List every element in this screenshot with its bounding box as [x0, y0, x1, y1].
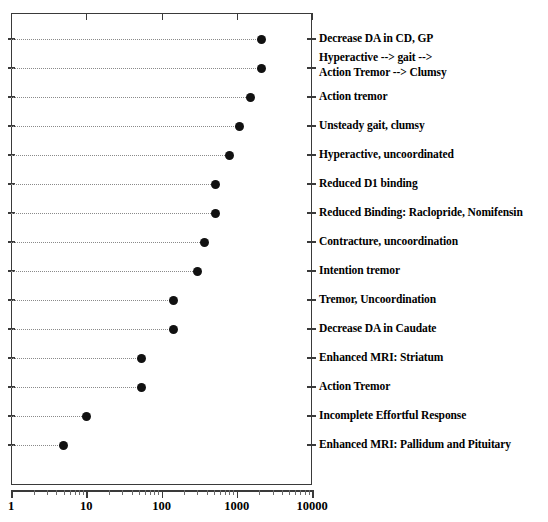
- category-label: Reduced D1 binding: [319, 177, 418, 191]
- x-minor-tick: [197, 490, 198, 495]
- x-minor-tick: [282, 490, 283, 495]
- leader-line: [11, 126, 240, 127]
- x-minor-tick: [273, 490, 274, 495]
- category-label: Enhanced MRI: Pallidum and Pituitary: [319, 438, 511, 452]
- leader-line: [11, 184, 215, 185]
- label-tick: [307, 241, 316, 243]
- x-minor-tick: [75, 490, 76, 495]
- label-tick: [307, 357, 316, 359]
- label-tick: [307, 67, 316, 69]
- leader-line: [11, 242, 204, 243]
- leader-line: [11, 358, 142, 359]
- leader-line: [11, 213, 215, 214]
- leader-line: [11, 445, 64, 446]
- data-point-marker[interactable]: [246, 93, 255, 102]
- label-tick: [307, 299, 316, 301]
- leader-line: [11, 329, 174, 330]
- data-point-marker[interactable]: [211, 180, 220, 189]
- x-tick-label: 1: [8, 499, 14, 514]
- x-minor-tick: [220, 490, 221, 495]
- plot-area: [11, 13, 312, 485]
- x-minor-tick: [158, 490, 159, 495]
- x-tick-label: 1000: [224, 499, 249, 514]
- leader-line: [11, 68, 262, 69]
- x-minor-tick: [56, 490, 57, 495]
- category-label: Action Tremor: [319, 380, 390, 394]
- x-minor-tick: [64, 490, 65, 495]
- label-tick: [307, 125, 316, 127]
- x-tick-1000: [237, 490, 239, 498]
- data-point-marker[interactable]: [82, 412, 91, 421]
- x-tick-1: [11, 490, 13, 498]
- data-point-marker[interactable]: [169, 325, 178, 334]
- data-point-marker[interactable]: [211, 209, 220, 218]
- category-label: Incomplete Effortful Response: [319, 409, 466, 423]
- x-minor-tick: [225, 490, 226, 495]
- x-minor-tick: [207, 490, 208, 495]
- category-label: Reduced Binding: Raclopride, Nomifensin: [319, 206, 523, 220]
- label-tick: [307, 270, 316, 272]
- x-minor-tick: [300, 490, 301, 495]
- x-minor-tick: [79, 490, 80, 495]
- data-point-marker[interactable]: [235, 122, 244, 131]
- x-minor-tick: [139, 490, 140, 495]
- data-point-marker[interactable]: [257, 64, 266, 73]
- x-tick-10000: [312, 490, 314, 498]
- data-point-marker[interactable]: [257, 35, 266, 44]
- leader-line: [11, 387, 142, 388]
- x-minor-tick: [229, 490, 230, 495]
- data-point-marker[interactable]: [59, 441, 68, 450]
- x-minor-tick: [259, 490, 260, 495]
- label-tick: [307, 96, 316, 98]
- x-minor-tick: [150, 490, 151, 495]
- leader-line: [11, 155, 229, 156]
- top-tick-100: [162, 13, 163, 20]
- x-tick-100: [162, 490, 164, 498]
- x-minor-tick: [184, 490, 185, 495]
- x-minor-tick: [109, 490, 110, 495]
- category-label: Contracture, uncoordination: [319, 235, 458, 249]
- category-label: Tremor, Uncoordination: [319, 293, 436, 307]
- label-tick: [307, 444, 316, 446]
- category-label: Hyperactive, uncoordinated: [319, 148, 454, 162]
- leader-line: [11, 271, 197, 272]
- top-tick-10000: [312, 13, 313, 20]
- label-tick: [307, 386, 316, 388]
- label-tick: [307, 183, 316, 185]
- data-point-marker[interactable]: [200, 238, 209, 247]
- x-tick-label: 10: [80, 499, 93, 514]
- category-label: Intention tremor: [319, 264, 400, 278]
- category-label: Decrease DA in Caudate: [319, 322, 436, 336]
- data-point-marker[interactable]: [225, 151, 234, 160]
- x-minor-tick: [145, 490, 146, 495]
- data-point-marker[interactable]: [169, 296, 178, 305]
- x-minor-tick: [233, 490, 234, 495]
- top-tick-1000: [237, 13, 238, 20]
- x-minor-tick: [132, 490, 133, 495]
- category-label: Hyperactive --> gait --> Action Tremor -…: [319, 50, 447, 79]
- label-tick: [307, 328, 316, 330]
- data-point-marker[interactable]: [137, 354, 146, 363]
- x-minor-tick: [47, 490, 48, 495]
- leader-line: [11, 416, 86, 417]
- category-label: Unsteady gait, clumsy: [319, 119, 425, 133]
- x-minor-tick: [34, 490, 35, 495]
- leader-line: [11, 39, 262, 40]
- category-label: Action tremor: [319, 90, 387, 104]
- x-tick-label: 100: [152, 499, 171, 514]
- label-tick: [307, 154, 316, 156]
- leader-line: [11, 97, 250, 98]
- label-tick: [307, 38, 316, 40]
- x-tick-10: [86, 490, 88, 498]
- x-minor-tick: [122, 490, 123, 495]
- x-minor-tick: [214, 490, 215, 495]
- x-minor-tick: [70, 490, 71, 495]
- x-minor-tick: [289, 490, 290, 495]
- data-point-marker[interactable]: [193, 267, 202, 276]
- x-minor-tick: [295, 490, 296, 495]
- x-minor-tick: [309, 490, 310, 495]
- data-point-marker[interactable]: [137, 383, 146, 392]
- category-label: Decrease DA in CD, GP: [319, 32, 433, 46]
- x-minor-tick: [83, 490, 84, 495]
- x-minor-tick: [154, 490, 155, 495]
